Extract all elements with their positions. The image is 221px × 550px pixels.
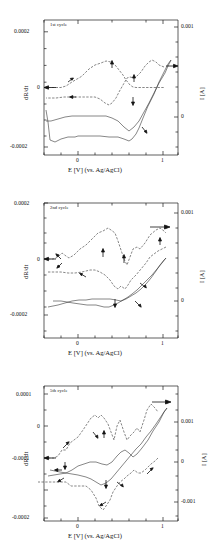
panel-1-x-axis-title: E [V] (vs. Ag/AgCl) xyxy=(68,166,122,173)
panel-2-ytick-top: 0.0002 xyxy=(14,200,29,206)
panel-1-y-axis-title: dR/dt xyxy=(22,86,29,100)
panel-3-ytick-zero: 0 xyxy=(37,423,40,429)
curve-drdt-return xyxy=(38,458,158,510)
panel-2-ytick-bot: -0.0002 xyxy=(10,311,27,317)
curve-current-forward xyxy=(48,258,166,307)
curve-current-return xyxy=(53,258,166,307)
panel-5th-cycle: 5th cycle 0.0001 0 -0.0001 -0.0002 0.001… xyxy=(0,366,221,549)
panel-1-ytick-top: 0.0002 xyxy=(14,28,29,34)
panel-2-y2tick-top: 0.001 xyxy=(181,209,194,215)
panel-3-y-axis-title: dR/dt xyxy=(22,452,29,466)
panel-2-ytick-mid: 0 xyxy=(37,256,40,262)
curve-current-return xyxy=(50,408,167,485)
arrow-group xyxy=(44,400,171,506)
panel-2-y2tick-zero: 0 xyxy=(181,297,184,303)
curve-drdt-forward xyxy=(48,228,166,265)
curve-current-forward xyxy=(46,60,171,142)
panel-3-x-axis-title: E [V] (vs. Ag/AgCl) xyxy=(68,532,122,539)
panel-3-y2-axis-title: I [A] xyxy=(200,453,207,466)
panel-2-x-axis-title: E [V] (vs. Ag/AgCl) xyxy=(68,349,122,356)
panel-1-xtick-0: 0 xyxy=(76,157,79,163)
arrow-group xyxy=(44,225,170,308)
panel-3-ytick-0p0001: 0.0001 xyxy=(16,391,31,397)
figure-root: 1st cycle 0.0002 0 -0.0002 0.001 0 0 1 d… xyxy=(0,0,221,550)
panel-2-xtick-1: 1 xyxy=(161,340,164,346)
curve-drdt-return xyxy=(48,247,166,289)
panel-2-y2-axis-title: I [A] xyxy=(198,270,205,283)
panel-3-ytick-neg0p0002: -0.0002 xyxy=(12,514,29,520)
curve-drdt-forward xyxy=(48,61,164,88)
panel-3-plot xyxy=(0,366,221,549)
panel-3-y2tick-top: 0.001 xyxy=(181,418,194,424)
panel-2-xtick-0: 0 xyxy=(76,340,79,346)
panel-1-ytick-bot: -0.0002 xyxy=(10,143,27,149)
panel-3-cycle-label: 5th cycle xyxy=(50,388,68,393)
panel-3-xtick-0: 0 xyxy=(76,523,79,529)
curve-current-return xyxy=(46,60,171,131)
panel-2-y-axis-title: dR/dt xyxy=(22,265,29,279)
panel-3-xtick-1: 1 xyxy=(161,523,164,529)
panel-3-y2tick-zero: 0 xyxy=(181,458,184,464)
curve-drdt-forward xyxy=(48,404,158,458)
panel-1-y2tick-top: 0.001 xyxy=(181,23,194,29)
panel-1-ytick-mid: 0 xyxy=(37,84,40,90)
panel-1-cycle-label: 1st cycle xyxy=(50,22,67,27)
panel-1-xtick-1: 1 xyxy=(161,157,164,163)
panel-2nd-cycle: 2nd cycle 0.0002 0 -0.0002 0.001 0 0 1 d… xyxy=(0,183,221,366)
panel-1st-cycle: 1st cycle 0.0002 0 -0.0002 0.001 0 0 1 d… xyxy=(0,0,221,183)
panel-3-y2tick-bot: -0.001 xyxy=(181,498,195,504)
curve-drdt-return xyxy=(46,60,164,105)
panel-1-y2-axis-title: I [A] xyxy=(198,87,205,100)
panel-2-cycle-label: 2nd cycle xyxy=(50,205,69,210)
panel-1-y2tick-zero: 0 xyxy=(181,113,184,119)
